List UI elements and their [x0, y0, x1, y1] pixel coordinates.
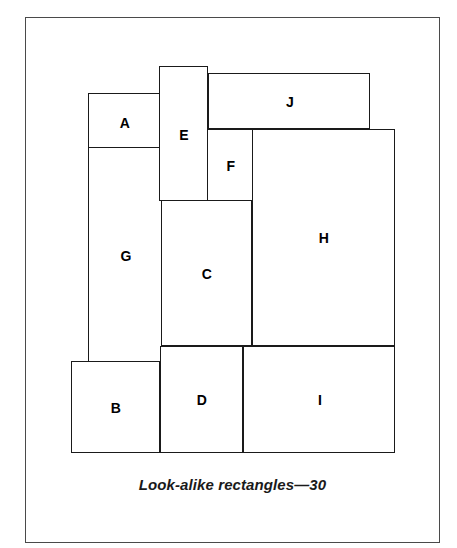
rectangle-label-i: I — [318, 393, 322, 407]
rectangle-label-e: E — [179, 128, 189, 142]
rectangle-label-j: J — [286, 95, 294, 109]
rectangle-label-f: F — [227, 159, 236, 173]
rectangle-c: C — [161, 200, 252, 346]
rectangle-label-c: C — [202, 267, 212, 281]
rectangle-i: I — [243, 346, 395, 453]
figure-caption: Look-alike rectangles—30 — [25, 476, 440, 493]
rectangle-label-g: G — [120, 249, 131, 263]
rectangle-b: B — [71, 361, 160, 453]
rectangle-g: G — [88, 147, 162, 363]
rectangle-label-b: B — [111, 401, 121, 415]
rectangle-h: H — [252, 129, 395, 346]
rectangle-label-d: D — [197, 393, 207, 407]
rectangle-j: J — [208, 73, 370, 129]
rectangle-f: F — [206, 129, 253, 201]
rectangle-label-h: H — [319, 231, 329, 245]
figure-page: ABCDEFGHIJ Look-alike rectangles—30 — [0, 0, 457, 548]
rectangle-label-a: A — [120, 116, 130, 130]
rectangle-d: D — [160, 346, 243, 453]
rectangle-e: E — [159, 66, 208, 201]
rectangle-a: A — [88, 93, 162, 148]
rectangle-dissection-diagram: ABCDEFGHIJ — [0, 0, 457, 548]
